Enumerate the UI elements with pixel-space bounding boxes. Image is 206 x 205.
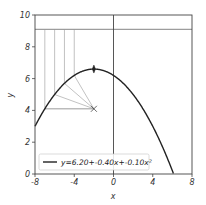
focus-ray-line [64,83,93,108]
x-tick-label: 4 [150,178,155,187]
vertex-diamond-marker [92,65,95,73]
y-tick-label: 8 [25,43,30,52]
y-axis-label: y [6,92,15,98]
y-tick-label: 0 [25,170,30,179]
x-tick-label: -4 [70,178,78,187]
x-axis-label: x [110,192,116,201]
y-tick-label: 4 [25,106,30,115]
x-tick-label: -8 [31,178,39,187]
legend-label: y=6.20+-0.40x+-0.10x² [60,158,152,167]
plot-area: -8-40480246810y=6.20+-0.40x+-0.10x² [20,11,195,187]
focus-ray-line [74,75,94,108]
y-tick-label: 6 [25,75,30,84]
x-tick-label: 8 [189,178,194,187]
x-tick-label: 0 [111,178,116,187]
y-tick-label: 10 [20,11,30,20]
focus-ray-line [55,95,94,109]
parabola-chart: -8-40480246810y=6.20+-0.40x+-0.10x² x y [0,0,206,205]
y-tick-label: 2 [25,138,30,147]
